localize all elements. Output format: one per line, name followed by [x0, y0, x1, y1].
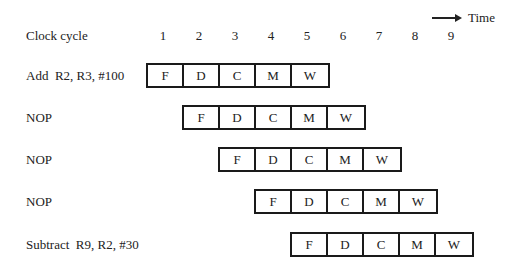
- instruction-label: NOP: [26, 194, 52, 210]
- stage-cell: W: [328, 107, 364, 128]
- cycle-7: 7: [369, 28, 389, 44]
- pipeline-row: F D C M W: [218, 147, 402, 172]
- cycle-4: 4: [261, 28, 281, 44]
- pipeline-row: F D C M W: [146, 63, 330, 88]
- stage-cell: M: [292, 107, 328, 128]
- stage-cell: C: [220, 65, 256, 86]
- stage-cell: M: [400, 234, 436, 255]
- stage-cell: C: [364, 234, 400, 255]
- cycle-5: 5: [297, 28, 317, 44]
- stage-cell: W: [364, 149, 400, 170]
- stage-cell: C: [256, 107, 292, 128]
- stage-cell: D: [184, 65, 220, 86]
- stage-cell: D: [328, 234, 364, 255]
- instruction-label: Subtract R9, R2, #30: [26, 237, 139, 253]
- stage-cell: M: [364, 191, 400, 212]
- cycle-8: 8: [405, 28, 425, 44]
- stage-cell: M: [328, 149, 364, 170]
- stage-cell: W: [436, 234, 472, 255]
- cycle-1: 1: [153, 28, 173, 44]
- stage-cell: F: [148, 65, 184, 86]
- instruction-label: NOP: [26, 152, 52, 168]
- instruction-label: Add R2, R3, #100: [26, 68, 124, 84]
- cycle-9: 9: [441, 28, 461, 44]
- stage-cell: D: [220, 107, 256, 128]
- clock-cycle-label: Clock cycle: [26, 28, 88, 44]
- stage-cell: D: [292, 191, 328, 212]
- stage-cell: F: [292, 234, 328, 255]
- stage-cell: F: [220, 149, 256, 170]
- stage-cell: W: [400, 191, 436, 212]
- cycle-3: 3: [225, 28, 245, 44]
- stage-cell: C: [292, 149, 328, 170]
- pipeline-row: F D C M W: [254, 189, 438, 214]
- stage-cell: D: [256, 149, 292, 170]
- cycle-6: 6: [333, 28, 353, 44]
- pipeline-row: F D C M W: [290, 232, 474, 257]
- stage-cell: F: [256, 191, 292, 212]
- pipeline-row: F D C M W: [182, 105, 366, 130]
- time-label: Time: [468, 10, 495, 26]
- stage-cell: C: [328, 191, 364, 212]
- stage-cell: M: [256, 65, 292, 86]
- stage-cell: F: [184, 107, 220, 128]
- instruction-label: NOP: [26, 110, 52, 126]
- time-arrow-icon: [432, 17, 460, 19]
- cycle-2: 2: [189, 28, 209, 44]
- stage-cell: W: [292, 65, 328, 86]
